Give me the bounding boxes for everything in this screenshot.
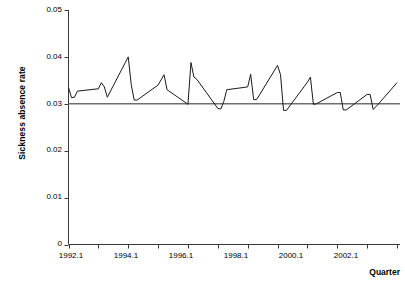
series-line-sickness-absence-rate [69, 57, 398, 110]
chart-container: Sickness absence rate Quarter 0 0.01 0.0… [0, 0, 405, 287]
plot-area [0, 0, 405, 287]
axes [69, 10, 401, 245]
y-tick-marks [65, 11, 69, 246]
x-tick-marks [70, 245, 398, 249]
